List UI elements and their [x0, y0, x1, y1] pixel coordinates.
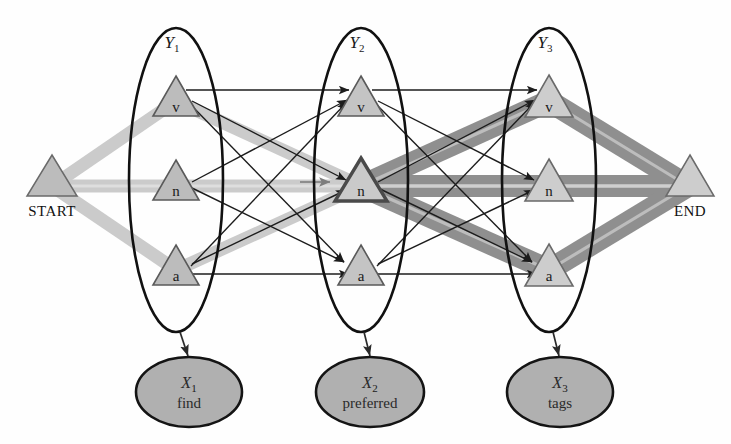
observed-word-label: find	[177, 395, 202, 411]
plate-label-Y3: Y3	[538, 33, 553, 54]
emission-arrows	[180, 332, 559, 356]
state-tag-label: n	[172, 183, 180, 199]
highlight-beam-right	[361, 101, 688, 270]
observed-word-label: preferred	[343, 395, 398, 411]
observed-word-label: tags	[548, 395, 572, 411]
state-tag-label: a	[173, 268, 180, 284]
state-tag-label: a	[358, 268, 365, 284]
start-label: START	[28, 203, 75, 219]
observed-node-X3[interactable]: X3 tags	[507, 357, 613, 427]
ellipse-shape	[316, 357, 424, 427]
state-node-Y2-v[interactable]: v	[338, 76, 384, 116]
state-tag-label: n	[357, 183, 365, 199]
state-node-Y1-v[interactable]: v	[153, 76, 199, 116]
observed-nodes: X1 find X2 preferred X3 tags	[136, 357, 613, 427]
emission-arrow-Y2-X2	[364, 332, 370, 356]
plate-label-Y2: Y2	[350, 33, 365, 54]
edge-a1-n2	[192, 190, 346, 264]
state-tag-label: a	[546, 268, 553, 284]
edge-n2-a3	[378, 188, 532, 262]
end-label: END	[674, 203, 706, 219]
diagram-svg: v n a v n a v n	[0, 0, 731, 444]
state-tag-label: n	[545, 183, 553, 199]
state-tag-label: v	[172, 99, 180, 115]
observed-node-X1[interactable]: X1 find	[136, 357, 242, 427]
start-node[interactable]: START	[27, 155, 77, 219]
plate-labels: Y1 Y2 Y3	[165, 33, 553, 54]
figure-canvas: v n a v n a v n	[0, 0, 731, 444]
state-tag-label: v	[545, 99, 553, 115]
plate-label-Y1: Y1	[165, 33, 180, 54]
ellipse-shape	[136, 357, 242, 427]
state-node-Y3-v[interactable]: v	[525, 75, 573, 117]
state-tag-label: v	[357, 99, 365, 115]
ellipse-shape	[507, 357, 613, 427]
emission-arrow-Y1-X1	[180, 332, 188, 356]
emission-arrow-Y3-X3	[553, 332, 559, 356]
observed-node-X2[interactable]: X2 preferred	[316, 357, 424, 427]
